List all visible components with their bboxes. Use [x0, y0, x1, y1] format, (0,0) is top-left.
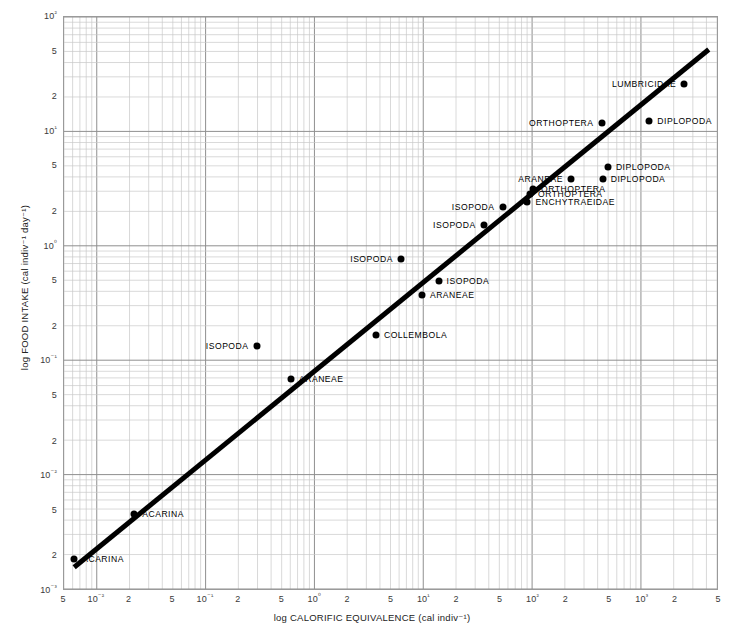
x-axis-tick: 5 — [388, 594, 393, 604]
y-axis-tick: 5 — [52, 390, 57, 400]
x-axis-tick-labels: 510⁻²2510⁻¹2510⁰2510¹2510²2510³25 — [0, 594, 744, 612]
x-axis-tick: 10² — [526, 594, 539, 604]
x-axis-tick: 5 — [60, 594, 65, 604]
data-point — [131, 510, 138, 517]
data-point-label: ISOPODA — [350, 254, 393, 264]
y-axis-tick: 5 — [52, 275, 57, 285]
x-axis-tick: 5 — [497, 594, 502, 604]
x-axis-tick: 2 — [344, 594, 349, 604]
data-point-label: ARANEAE — [518, 174, 563, 184]
data-point-label: DIPLOPODA — [657, 116, 712, 126]
x-axis-tick: 2 — [672, 594, 677, 604]
data-point-label: ARANEAE — [430, 290, 475, 300]
data-point-label: COLLEMBOLA — [384, 330, 447, 340]
y-axis-tick: 5 — [52, 160, 57, 170]
x-axis-tick: 2 — [235, 594, 240, 604]
data-point — [599, 175, 606, 182]
x-axis-tick: 2 — [454, 594, 459, 604]
data-point — [681, 81, 688, 88]
data-point — [418, 291, 425, 298]
data-point — [530, 185, 537, 192]
y-axis-title: log FOOD INTAKE (cal indiv⁻¹ day⁻¹) — [19, 158, 30, 418]
data-point — [598, 119, 605, 126]
data-layer — [64, 17, 717, 589]
data-point-label: DIPLOPODA — [611, 174, 666, 184]
data-point-label: ISOPODA — [206, 341, 249, 351]
y-axis-tick: 5 — [52, 505, 57, 515]
data-point-label: ISOPODA — [452, 202, 495, 212]
data-point-label: ISOPODA — [447, 276, 490, 286]
x-axis-tick: 10⁻¹ — [197, 594, 214, 604]
y-axis-tick: 2 — [52, 550, 57, 560]
y-axis-tick: 2 — [52, 321, 57, 331]
data-point-label: ISOPODA — [433, 220, 476, 230]
x-axis-tick: 5 — [715, 594, 720, 604]
x-axis-tick: 10¹ — [417, 594, 430, 604]
x-axis-tick: 2 — [563, 594, 568, 604]
data-point-label: ORTHOPTERA — [541, 184, 606, 194]
chart-figure: 10²5210¹5210⁰5210⁻¹5210⁻²5210⁻³ ACARINAA… — [0, 0, 744, 638]
data-point — [567, 175, 574, 182]
y-axis-tick: 2 — [52, 436, 57, 446]
data-point-label: LUMBRICIDAE — [612, 79, 676, 89]
x-axis-tick: 10⁰ — [307, 594, 320, 604]
x-axis-tick: 5 — [606, 594, 611, 604]
data-point — [287, 376, 294, 383]
x-axis-tick: 5 — [279, 594, 284, 604]
y-axis-tick: 5 — [52, 46, 57, 56]
y-axis-tick: 10⁻² — [40, 470, 57, 480]
y-axis-tick: 10⁻¹ — [40, 355, 57, 365]
data-point-label: DIPLOPODA — [616, 162, 671, 172]
y-axis-tick: 10⁰ — [44, 241, 57, 251]
data-point — [71, 555, 78, 562]
data-point — [397, 255, 404, 262]
data-point — [253, 343, 260, 350]
data-point-label: ACARINA — [142, 509, 184, 519]
data-point-label: ARANEAE — [299, 374, 344, 384]
data-point — [480, 221, 487, 228]
data-point — [524, 198, 531, 205]
plot-area: ACARINAACARINAARANEAEISOPODACOLLEMBOLAAR… — [63, 16, 718, 590]
data-point — [372, 331, 379, 338]
data-point-label: ORTHOPTERA — [529, 118, 594, 128]
x-axis-title: log CALORIFIC EQUIVALENCE (cal indiv⁻¹) — [0, 612, 744, 623]
x-axis-tick: 2 — [126, 594, 131, 604]
x-axis-tick: 10³ — [635, 594, 648, 604]
y-axis-tick: 10¹ — [44, 126, 57, 136]
data-point — [435, 278, 442, 285]
data-point — [604, 164, 611, 171]
y-axis-tick: 2 — [52, 206, 57, 216]
y-axis-tick: 10² — [44, 11, 57, 21]
data-point — [646, 117, 653, 124]
y-axis-tick: 2 — [52, 91, 57, 101]
data-point — [499, 204, 506, 211]
x-axis-tick: 10⁻² — [87, 594, 104, 604]
x-axis-tick: 5 — [170, 594, 175, 604]
data-point-label: ACARINA — [82, 554, 124, 564]
